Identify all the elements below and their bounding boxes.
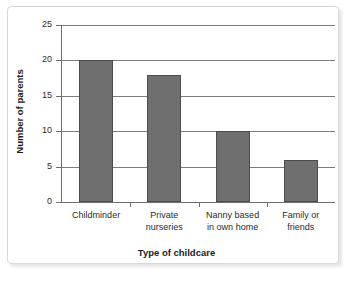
x-axis-tick (267, 202, 268, 207)
y-axis-tick-label: 10 (10, 126, 52, 135)
x-axis-title: Type of childcare (0, 247, 353, 258)
y-axis-tick-label: 0 (10, 197, 52, 206)
y-axis-tick-label: 25 (10, 20, 52, 29)
x-axis-tick (130, 202, 131, 207)
x-axis-tick-label: Privatenurseries (130, 209, 198, 233)
y-axis-tick-label: 20 (10, 55, 52, 64)
bar (79, 60, 113, 202)
bar (284, 160, 318, 202)
y-axis-tick-label: 5 (10, 162, 52, 171)
x-axis-tick-label: Childminder (62, 209, 130, 221)
plot-area (62, 25, 335, 202)
y-axis-tick-label: 15 (10, 91, 52, 100)
bar (216, 131, 250, 202)
y-axis-tick (56, 202, 62, 203)
x-axis-tick-label: Nanny basedin own home (199, 209, 267, 233)
x-axis-tick-label: Family orfriends (267, 209, 335, 233)
bar (147, 75, 181, 202)
x-axis-tick (199, 202, 200, 207)
chart-figure: Number of parents 0510152025 Childminder… (0, 0, 353, 282)
